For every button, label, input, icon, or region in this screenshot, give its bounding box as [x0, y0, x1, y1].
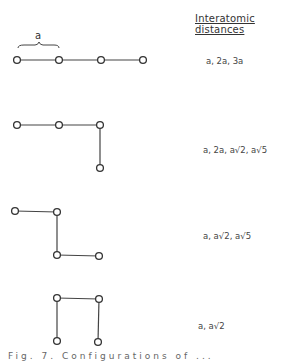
atom-node [14, 122, 21, 129]
atom-node [14, 57, 21, 64]
distances-config-1: a, 2a, 3a [206, 56, 243, 66]
atom-node [12, 208, 19, 215]
interatomic-distances-heading: Interatomic distances [195, 13, 297, 35]
lattice-spacing-label: a [35, 30, 41, 41]
atom-node [56, 122, 63, 129]
atom-node [54, 295, 61, 302]
atom-node [56, 57, 63, 64]
atom-node [54, 209, 61, 216]
atom-node [96, 253, 103, 260]
distances-config-3: a, a√2, a√5 [203, 231, 251, 241]
atom-node [140, 57, 147, 64]
distances-config-4: a, a√2 [198, 321, 225, 331]
atom-node [97, 122, 104, 129]
atom-node [54, 338, 61, 345]
bond-line [98, 299, 99, 342]
atom-node [95, 339, 102, 346]
atom-node [98, 57, 105, 64]
bond-line [15, 211, 57, 212]
bond-line [57, 255, 99, 256]
distances-config-2: a, 2a, a√2, a√5 [203, 145, 267, 155]
brace-indicator [18, 42, 59, 48]
atom-node [96, 296, 103, 303]
atom-node [54, 252, 61, 259]
figure-caption: Fig. 7. Configurations of ... [8, 351, 214, 361]
bond-line [57, 298, 99, 299]
atom-node [97, 165, 104, 172]
